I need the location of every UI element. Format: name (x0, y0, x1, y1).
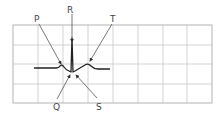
label-t: T (109, 14, 116, 24)
ecg-diagram: P R T Q S (0, 0, 222, 120)
ecg-svg: P R T Q S (0, 0, 222, 120)
grid (13, 25, 212, 103)
label-r: R (67, 5, 73, 15)
label-p: P (34, 14, 40, 24)
arrows (39, 14, 112, 99)
label-s: S (96, 102, 102, 112)
ecg-trace (34, 38, 110, 72)
label-q: Q (53, 102, 60, 112)
